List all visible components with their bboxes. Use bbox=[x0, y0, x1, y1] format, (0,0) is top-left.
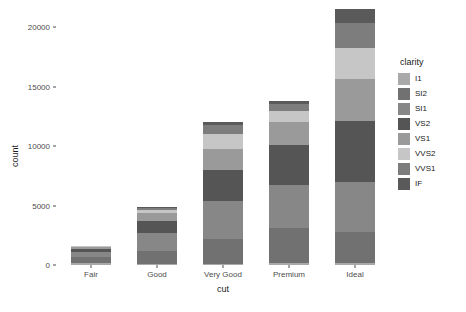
legend-swatch-icon bbox=[398, 73, 410, 85]
y-axis: count 05000100001500020000 bbox=[0, 0, 58, 312]
x-tick-mark bbox=[157, 265, 158, 268]
x-tick-label: Good bbox=[147, 270, 167, 279]
x-tick-label: Ideal bbox=[346, 270, 363, 279]
legend-item-vvs2[interactable]: VVS2 bbox=[398, 146, 464, 161]
y-tick-label: 15000 bbox=[28, 82, 50, 91]
legend-item-label: VS1 bbox=[415, 135, 430, 143]
legend-swatch-icon bbox=[398, 88, 410, 100]
x-tick-label: Very Good bbox=[204, 270, 242, 279]
bar-segment-vs2[interactable] bbox=[137, 221, 178, 233]
legend-item-vvs1[interactable]: VVS1 bbox=[398, 161, 464, 176]
y-tick-label: 0 bbox=[46, 261, 50, 270]
x-tick-mark bbox=[355, 265, 356, 268]
x-axis-title: cut bbox=[58, 284, 388, 294]
legend-item-vs2[interactable]: VS2 bbox=[398, 116, 464, 131]
chart-root: count 05000100001500020000 cut FairGoodV… bbox=[0, 0, 466, 312]
bar-segment-vvs2[interactable] bbox=[203, 134, 244, 149]
bar-segment-vs1[interactable] bbox=[203, 149, 244, 170]
legend-item-si1[interactable]: SI1 bbox=[398, 101, 464, 116]
bar-segment-si2[interactable] bbox=[335, 232, 376, 263]
bar-segment-si1[interactable] bbox=[335, 182, 376, 233]
legend-item-si2[interactable]: SI2 bbox=[398, 86, 464, 101]
bar-segment-si2[interactable] bbox=[269, 228, 310, 263]
bar-very-good[interactable] bbox=[203, 121, 244, 265]
bar-segment-si1[interactable] bbox=[203, 201, 244, 239]
bar-segment-vs1[interactable] bbox=[335, 79, 376, 122]
legend-swatch-icon bbox=[398, 163, 410, 175]
legend-item-label: SI2 bbox=[415, 90, 427, 98]
y-tick-mark bbox=[53, 146, 56, 147]
bar-segment-vs2[interactable] bbox=[335, 121, 376, 181]
bar-ideal[interactable] bbox=[335, 9, 376, 265]
y-tick-mark bbox=[53, 86, 56, 87]
bar-segment-si1[interactable] bbox=[137, 233, 178, 252]
y-tick-mark bbox=[53, 265, 56, 266]
bar-segment-vvs1[interactable] bbox=[203, 125, 244, 134]
x-tick-mark bbox=[91, 265, 92, 268]
bar-segment-si2[interactable] bbox=[203, 239, 244, 264]
legend-item-if[interactable]: IF bbox=[398, 176, 464, 191]
bar-premium[interactable] bbox=[269, 101, 310, 265]
x-tick-mark bbox=[289, 265, 290, 268]
legend-item-i1[interactable]: I1 bbox=[398, 71, 464, 86]
y-tick-mark bbox=[53, 27, 56, 28]
legend-swatch-icon bbox=[398, 133, 410, 145]
bar-segment-vs1[interactable] bbox=[269, 122, 310, 146]
x-tick-mark bbox=[223, 265, 224, 268]
plot-panel bbox=[58, 6, 388, 265]
legend-item-label: VVS1 bbox=[415, 165, 435, 173]
legend-item-label: IF bbox=[415, 180, 422, 188]
legend: clarity I1SI2SI1VS2VS1VVS2VVS1IF bbox=[398, 57, 464, 191]
y-tick-label: 10000 bbox=[28, 142, 50, 151]
bar-segment-vs2[interactable] bbox=[269, 145, 310, 185]
legend-item-label: VS2 bbox=[415, 120, 430, 128]
bar-fair[interactable] bbox=[71, 246, 112, 265]
legend-item-label: SI1 bbox=[415, 105, 427, 113]
bar-segment-vvs1[interactable] bbox=[269, 104, 310, 111]
y-tick-label: 20000 bbox=[28, 23, 50, 32]
legend-swatch-icon bbox=[398, 148, 410, 160]
y-tick-label: 5000 bbox=[32, 201, 50, 210]
y-axis-title: count bbox=[10, 145, 20, 167]
legend-swatch-icon bbox=[398, 118, 410, 130]
bar-segment-if[interactable] bbox=[335, 9, 376, 23]
bar-segment-si1[interactable] bbox=[269, 185, 310, 227]
bar-segment-si2[interactable] bbox=[137, 251, 178, 264]
legend-title: clarity bbox=[400, 57, 464, 67]
x-axis: cut FairGoodVery GoodPremiumIdeal bbox=[58, 265, 388, 312]
legend-item-label: VVS2 bbox=[415, 150, 435, 158]
legend-swatch-icon bbox=[398, 103, 410, 115]
y-tick-mark bbox=[53, 205, 56, 206]
bar-segment-vs2[interactable] bbox=[203, 170, 244, 201]
bar-good[interactable] bbox=[137, 207, 178, 265]
legend-items: I1SI2SI1VS2VS1VVS2VVS1IF bbox=[398, 71, 464, 191]
x-tick-label: Fair bbox=[84, 270, 98, 279]
bar-segment-vs1[interactable] bbox=[137, 213, 178, 221]
legend-item-label: I1 bbox=[415, 75, 422, 83]
bar-segment-vvs1[interactable] bbox=[335, 23, 376, 47]
legend-swatch-icon bbox=[398, 178, 410, 190]
legend-item-vs1[interactable]: VS1 bbox=[398, 131, 464, 146]
bar-segment-vvs2[interactable] bbox=[269, 111, 310, 121]
bar-segment-vvs2[interactable] bbox=[335, 48, 376, 79]
x-tick-label: Premium bbox=[273, 270, 305, 279]
